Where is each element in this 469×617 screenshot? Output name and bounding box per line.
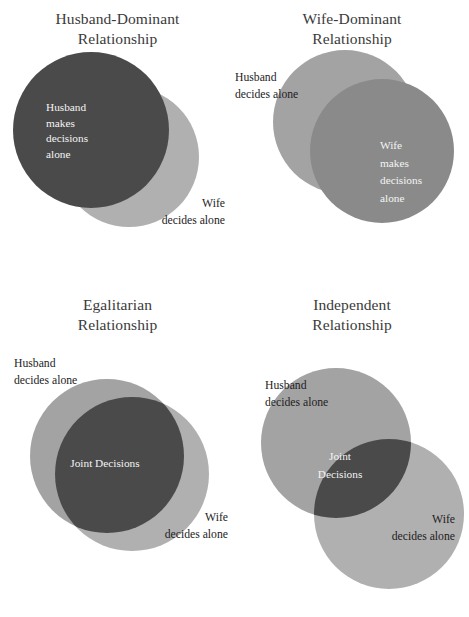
panel-title-egalitarian: Egalitarian Relationship [0, 295, 235, 335]
panel-title-wife-dominant: Wife-Dominant Relationship [235, 9, 469, 49]
panel-independent: Independent Relationship Husband decides… [235, 290, 469, 617]
wife-set-label: Wife decides alone [350, 512, 455, 545]
panel-husband-dominant: Husband-Dominant Relationship Husband ma… [0, 0, 235, 290]
venn-figure-container: Husband-Dominant Relationship Husband ma… [0, 0, 469, 617]
husband-set-label: Husband decides alone [14, 356, 124, 389]
panel-wife-dominant: Wife-Dominant Relationship Husband decid… [235, 0, 469, 290]
panel-title-husband-dominant: Husband-Dominant Relationship [0, 9, 235, 49]
joint-decisions-label: Joint Decisions [297, 448, 383, 483]
wife-set-label: Wife decides alone [118, 510, 228, 543]
wife-set-label: Wife makes decisions alone [380, 137, 460, 207]
husband-set-label: Husband makes decisions alone [46, 100, 136, 162]
husband-set-label: Husband decides alone [265, 378, 375, 411]
panel-title-independent: Independent Relationship [235, 295, 469, 335]
panel-egalitarian: Egalitarian Relationship Husband decides… [0, 290, 235, 617]
joint-decisions-label: Joint Decisions [40, 455, 170, 473]
husband-set-label: Husband decides alone [235, 70, 333, 103]
wife-set-label: Wife decides alone [120, 196, 225, 229]
